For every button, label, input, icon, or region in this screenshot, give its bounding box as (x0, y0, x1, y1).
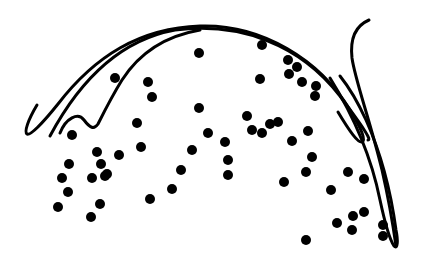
dot (203, 128, 213, 138)
dot (292, 62, 302, 72)
dot (307, 152, 317, 162)
dot (57, 173, 67, 183)
dot (223, 170, 233, 180)
dot (303, 126, 313, 136)
dot (359, 207, 369, 217)
dot (283, 55, 293, 65)
dot (247, 125, 257, 135)
dot (64, 159, 74, 169)
dot (301, 167, 311, 177)
dot (332, 218, 342, 228)
dot (301, 235, 311, 245)
dot (87, 173, 97, 183)
dot (86, 212, 96, 222)
dot (95, 199, 105, 209)
dot (257, 128, 267, 138)
dot (326, 185, 336, 195)
dot (187, 145, 197, 155)
dot (132, 118, 142, 128)
dot (110, 73, 120, 83)
dot (310, 91, 320, 101)
dot (96, 159, 106, 169)
dot (100, 171, 110, 181)
dot (343, 167, 353, 177)
dot (114, 150, 124, 160)
dot (63, 187, 73, 197)
dot (273, 117, 283, 127)
dot (67, 130, 77, 140)
dot (279, 177, 289, 187)
sketch-canvas (0, 0, 422, 266)
dot (284, 69, 294, 79)
dot (348, 211, 358, 221)
dot (167, 184, 177, 194)
dot (145, 194, 155, 204)
dot (378, 231, 388, 241)
dot (220, 137, 230, 147)
dot (194, 103, 204, 113)
dot (53, 202, 63, 212)
dot (242, 111, 252, 121)
dot (194, 48, 204, 58)
dot (255, 74, 265, 84)
dot (347, 225, 357, 235)
dot (176, 165, 186, 175)
dot (287, 136, 297, 146)
dot (297, 77, 307, 87)
dot (359, 174, 369, 184)
dot (223, 155, 233, 165)
dot (136, 142, 146, 152)
dot (147, 92, 157, 102)
dot (92, 147, 102, 157)
dot-scatter (53, 40, 388, 245)
dot (378, 220, 388, 230)
dot (311, 81, 321, 91)
dot (257, 40, 267, 50)
dot (143, 77, 153, 87)
